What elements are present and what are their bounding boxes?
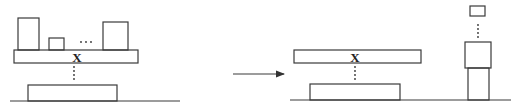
- before-state: X: [10, 18, 180, 101]
- tall-box: [18, 18, 39, 50]
- small-box-right: [470, 6, 485, 16]
- after-state: X: [290, 6, 511, 100]
- plank-label-left: X: [72, 50, 82, 65]
- stacking-diagram: X X: [0, 0, 521, 108]
- vertical-ellipsis-right: [354, 66, 356, 80]
- pillar: [468, 68, 489, 100]
- base-block-right: [310, 84, 400, 100]
- horizontal-ellipsis: [80, 41, 92, 43]
- plank-label-right: X: [350, 50, 360, 65]
- vertical-ellipsis-stack: [477, 24, 479, 38]
- square-box-right: [465, 42, 491, 68]
- vertical-ellipsis-left: [73, 66, 75, 80]
- small-box-left: [49, 38, 64, 50]
- base-block-left: [28, 85, 117, 101]
- square-box-left: [103, 22, 128, 50]
